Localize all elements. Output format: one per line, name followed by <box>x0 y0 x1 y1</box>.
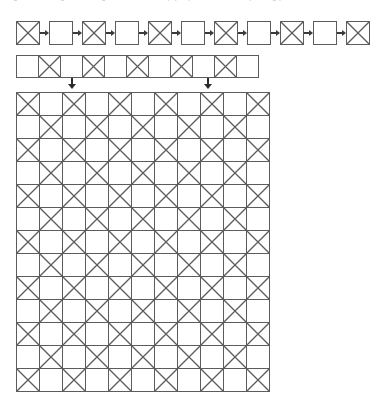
cross-icon <box>215 56 236 77</box>
grid-cell-crossed <box>16 92 40 116</box>
cross-icon <box>247 93 269 115</box>
cross-icon <box>247 277 269 299</box>
cross-icon <box>247 139 269 161</box>
down-arrow-icon <box>67 78 76 90</box>
grid-cell-crossed <box>62 92 86 116</box>
cross-icon <box>40 346 62 368</box>
grid-cell-empty <box>85 322 109 346</box>
crossed-box <box>346 21 370 45</box>
grid-cell-crossed <box>39 207 63 231</box>
grid-cell-empty <box>223 138 247 162</box>
grid-cell-empty <box>246 207 270 231</box>
right-arrow-icon <box>172 28 181 38</box>
strip-cell-crossed <box>38 55 61 78</box>
grid-cell-crossed <box>223 207 247 231</box>
grid-cell-empty <box>108 207 132 231</box>
grid-row <box>16 207 270 231</box>
cross-icon <box>109 93 131 115</box>
cross-icon <box>247 185 269 207</box>
cross-icon <box>17 231 39 253</box>
grid-row <box>16 299 270 323</box>
cross-icon <box>86 300 108 322</box>
grid-cell-crossed <box>16 184 40 208</box>
cross-icon <box>109 139 131 161</box>
cross-icon <box>17 185 39 207</box>
cross-icon <box>155 93 177 115</box>
grid-cell-empty <box>39 92 63 116</box>
cross-icon <box>17 369 39 391</box>
cross-icon <box>132 208 154 230</box>
cross-icon <box>224 300 246 322</box>
cross-icon <box>63 323 85 345</box>
cross-icon <box>247 323 269 345</box>
grid-cell-crossed <box>16 276 40 300</box>
grid-cell-crossed <box>108 276 132 300</box>
grid-cell-empty <box>39 322 63 346</box>
cross-icon <box>178 300 200 322</box>
cross-icon <box>215 22 237 44</box>
grid-cell-crossed <box>131 299 155 323</box>
grid-cell-crossed <box>223 161 247 185</box>
empty-box <box>115 21 139 45</box>
strip-cell-crossed <box>82 55 105 78</box>
grid-cell-empty <box>16 345 40 369</box>
cross-icon <box>63 277 85 299</box>
cross-icon <box>17 277 39 299</box>
cross-icon <box>224 254 246 276</box>
grid-cell-crossed <box>108 92 132 116</box>
strip-cell-empty <box>192 55 215 78</box>
grid-cell-empty <box>85 276 109 300</box>
cross-icon <box>63 369 85 391</box>
cross-icon <box>224 208 246 230</box>
grid-cell-empty <box>108 299 132 323</box>
grid-cell-crossed <box>177 115 201 139</box>
strip-cell-empty <box>16 55 39 78</box>
grid-cell-empty <box>177 230 201 254</box>
grid-row <box>16 115 270 139</box>
grid-cell-crossed <box>223 115 247 139</box>
grid-cell-crossed <box>16 230 40 254</box>
grid-cell-empty <box>39 184 63 208</box>
grid-cell-empty <box>85 184 109 208</box>
grid-cell-empty <box>246 299 270 323</box>
grid-cell-empty <box>154 207 178 231</box>
grid-cell-empty <box>246 161 270 185</box>
grid-cell-empty <box>154 345 178 369</box>
grid-row <box>16 345 270 369</box>
grid-cell-empty <box>16 207 40 231</box>
grid-cell-crossed <box>108 184 132 208</box>
down-arrow-icon <box>203 78 212 90</box>
strip-cell-empty <box>104 55 127 78</box>
grid-cell-empty <box>39 368 63 392</box>
cross-icon <box>63 93 85 115</box>
grid-cell-crossed <box>200 368 224 392</box>
grid-cell-crossed <box>177 253 201 277</box>
grid-cell-empty <box>200 207 224 231</box>
grid-cell-empty <box>200 345 224 369</box>
grid-cell-crossed <box>154 322 178 346</box>
cross-icon <box>155 139 177 161</box>
cross-icon <box>17 22 39 44</box>
grid-cell-crossed <box>85 207 109 231</box>
cross-icon <box>127 56 148 77</box>
grid-cell-empty <box>223 184 247 208</box>
cross-icon <box>155 369 177 391</box>
grid-cell-empty <box>62 161 86 185</box>
grid-cell-empty <box>246 345 270 369</box>
cross-icon <box>247 231 269 253</box>
cross-icon <box>132 162 154 184</box>
grid-cell-empty <box>200 299 224 323</box>
grid-cell-empty <box>108 161 132 185</box>
grid-cell-empty <box>177 322 201 346</box>
grid-cell-empty <box>177 184 201 208</box>
cross-icon <box>86 346 108 368</box>
right-arrow-icon <box>106 28 115 38</box>
grid-cell-empty <box>131 138 155 162</box>
grid-cell-empty <box>62 345 86 369</box>
right-arrow-icon <box>271 28 280 38</box>
grid-cell-empty <box>154 253 178 277</box>
cross-icon <box>86 254 108 276</box>
grid-row <box>16 161 270 185</box>
grid-cell-empty <box>177 138 201 162</box>
grid-cell-empty <box>223 368 247 392</box>
